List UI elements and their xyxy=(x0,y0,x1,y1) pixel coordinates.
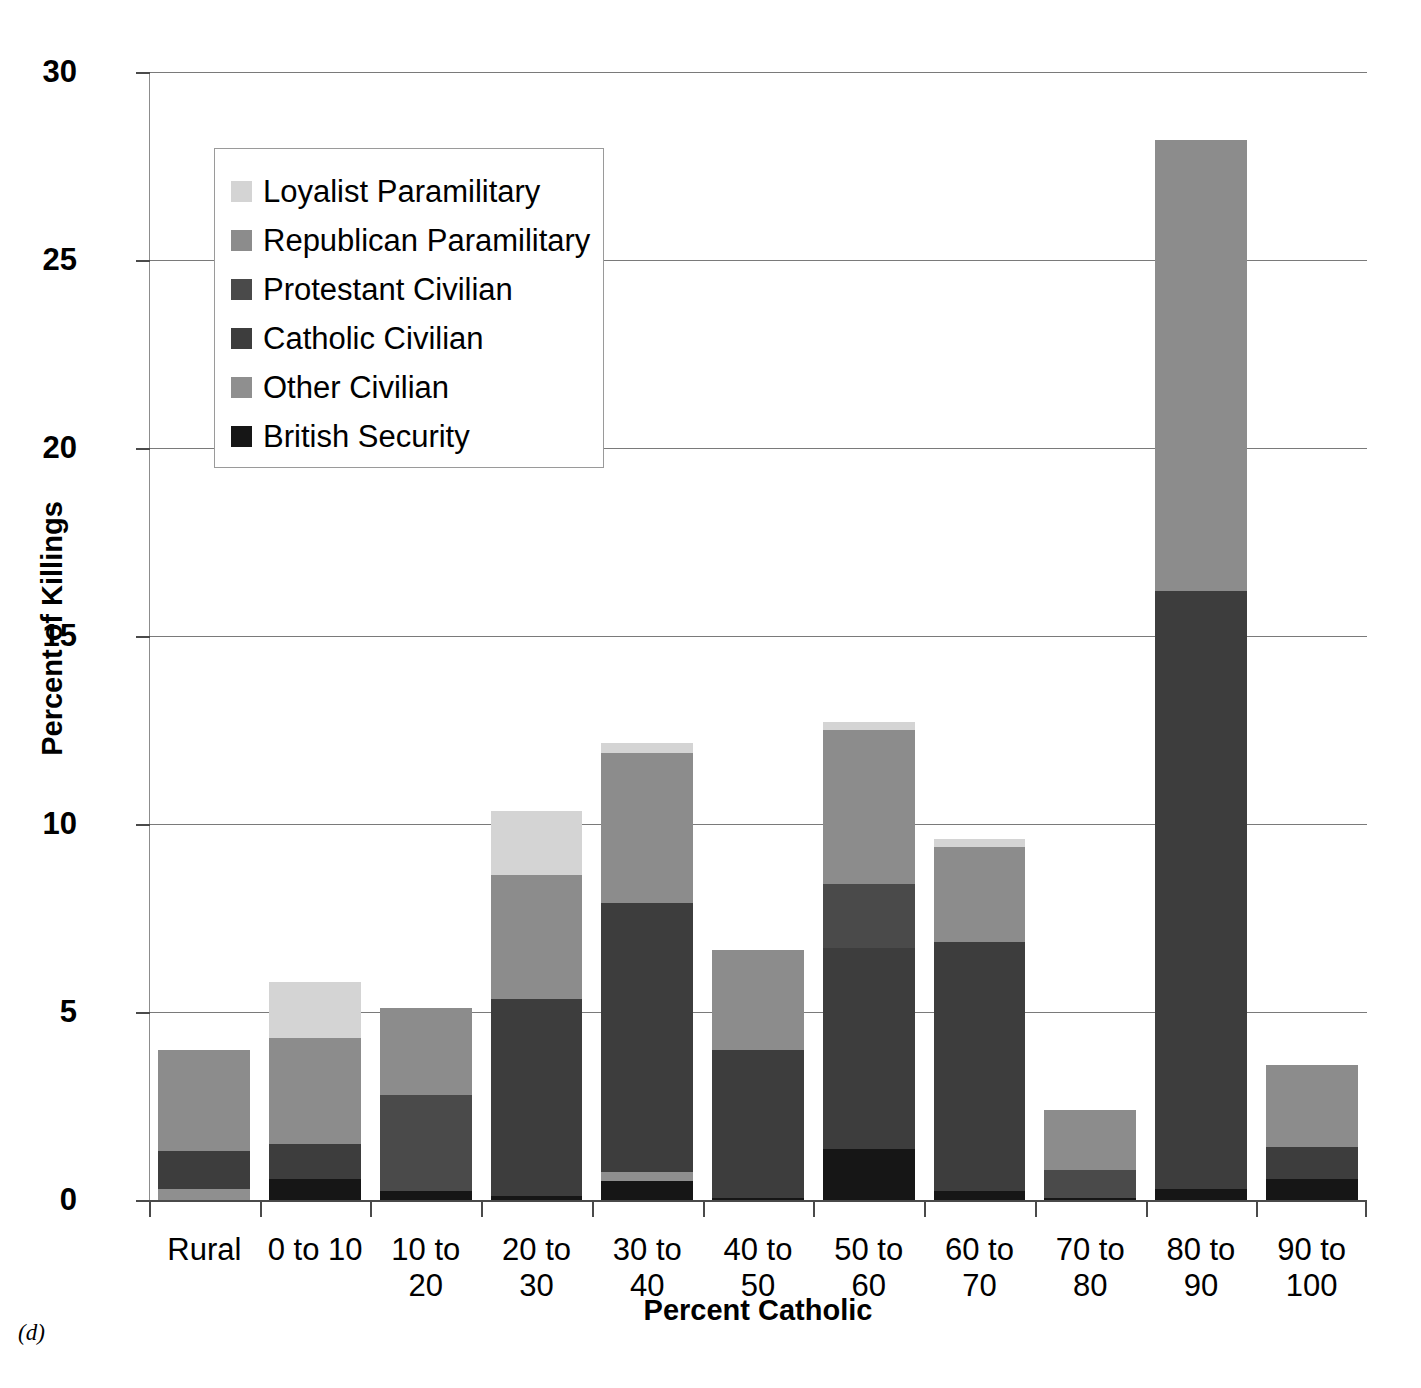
legend-swatch-icon xyxy=(231,230,252,251)
bar-segment xyxy=(1155,591,1247,1189)
bar-segment xyxy=(158,1050,250,1152)
bar-segment xyxy=(823,884,915,948)
legend-swatch-icon xyxy=(231,279,252,300)
bar-segment xyxy=(712,1198,804,1200)
y-tick-mark xyxy=(136,260,150,262)
x-axis-title: Percent Catholic xyxy=(149,1294,1367,1327)
x-tick-mark xyxy=(481,1202,483,1217)
bar-segment xyxy=(1266,1179,1358,1200)
bar-segment xyxy=(1044,1198,1136,1200)
bar-segment xyxy=(934,839,1026,847)
bar-segment xyxy=(158,1189,250,1200)
bar-segment xyxy=(380,1095,472,1191)
stacked-bar-chart: Percent of Killings 051015202530 Rural0 … xyxy=(0,0,1421,1388)
x-label-line: 40 to xyxy=(703,1232,814,1268)
bar-segment xyxy=(601,1181,693,1200)
bar-segment xyxy=(269,1144,361,1180)
x-label-line: 20 to xyxy=(481,1232,592,1268)
x-label-line: 90 to xyxy=(1256,1232,1367,1268)
x-tick-mark xyxy=(592,1202,594,1217)
bar-segment xyxy=(1044,1170,1136,1198)
bar-segment xyxy=(380,1191,472,1200)
legend-swatch-icon xyxy=(231,426,252,447)
legend-item-label: Other Civilian xyxy=(263,372,449,403)
x-tick-mark xyxy=(260,1202,262,1217)
bar-segment xyxy=(269,1179,361,1200)
x-tick-mark xyxy=(1256,1202,1258,1217)
y-tick-label: 25 xyxy=(0,244,77,275)
legend-item-label: British Security xyxy=(263,421,470,452)
x-label-line: 80 to xyxy=(1146,1232,1257,1268)
x-label-line: 30 to xyxy=(592,1232,703,1268)
bar-60-to-70 xyxy=(934,72,1026,1200)
legend-item-label: Protestant Civilian xyxy=(263,274,513,305)
legend-item: Protestant Civilian xyxy=(231,265,603,314)
bar-segment xyxy=(1155,1189,1247,1200)
y-tick-mark xyxy=(136,1012,150,1014)
y-tick-mark xyxy=(136,1200,150,1202)
y-tick-mark xyxy=(136,824,150,826)
y-tick-label: 15 xyxy=(0,620,77,651)
bar-segment xyxy=(712,1050,804,1199)
bar-segment xyxy=(712,950,804,1050)
x-axis-label: 0 to 10 xyxy=(260,1232,371,1268)
bar-segment xyxy=(823,948,915,1149)
bar-segment xyxy=(491,811,583,875)
legend-item: Catholic Civilian xyxy=(231,314,603,363)
y-tick-label: 30 xyxy=(0,56,77,87)
bar-segment xyxy=(491,1196,583,1200)
legend-item-label: Loyalist Paramilitary xyxy=(263,176,540,207)
x-tick-mark xyxy=(1365,1202,1367,1217)
y-tick-label: 0 xyxy=(0,1184,77,1215)
x-label-line: 60 to xyxy=(924,1232,1035,1268)
x-tick-mark xyxy=(149,1202,151,1217)
figure-caption: (d) xyxy=(18,1320,45,1346)
x-tick-mark xyxy=(1146,1202,1148,1217)
chart-legend: Loyalist ParamilitaryRepublican Paramili… xyxy=(214,148,604,468)
bar-80-to-90 xyxy=(1155,72,1247,1200)
y-tick-mark xyxy=(136,448,150,450)
legend-item: Other Civilian xyxy=(231,363,603,412)
legend-swatch-icon xyxy=(231,377,252,398)
bar-segment xyxy=(601,903,693,1172)
bar-40-to-50 xyxy=(712,72,804,1200)
x-axis-label: Rural xyxy=(149,1232,260,1268)
bar-segment xyxy=(601,743,693,752)
bar-segment xyxy=(823,722,915,730)
x-label-line: 10 to xyxy=(370,1232,481,1268)
bar-segment xyxy=(269,982,361,1038)
legend-swatch-icon xyxy=(231,181,252,202)
bar-70-to-80 xyxy=(1044,72,1136,1200)
x-tick-mark xyxy=(370,1202,372,1217)
y-tick-label: 20 xyxy=(0,432,77,463)
y-tick-mark xyxy=(136,636,150,638)
x-tick-mark xyxy=(1035,1202,1037,1217)
bar-segment xyxy=(380,1008,472,1094)
bar-segment xyxy=(1044,1110,1136,1170)
legend-item: Republican Paramilitary xyxy=(231,216,603,265)
x-tick-mark xyxy=(813,1202,815,1217)
bar-segment xyxy=(491,999,583,1196)
bar-segment xyxy=(823,730,915,884)
bar-segment xyxy=(1266,1147,1358,1179)
legend-item-label: Republican Paramilitary xyxy=(263,225,590,256)
bar-segment xyxy=(491,875,583,999)
bar-segment xyxy=(823,1149,915,1200)
x-tick-mark xyxy=(703,1202,705,1217)
bar-segment xyxy=(934,847,1026,943)
x-label-line: 70 to xyxy=(1035,1232,1146,1268)
legend-item-label: Catholic Civilian xyxy=(263,323,484,354)
x-axis-line xyxy=(149,1200,1367,1202)
x-tick-mark xyxy=(924,1202,926,1217)
bar-segment xyxy=(1155,140,1247,591)
legend-item: British Security xyxy=(231,412,603,461)
legend-swatch-icon xyxy=(231,328,252,349)
bar-30-to-40 xyxy=(601,72,693,1200)
y-tick-label: 5 xyxy=(0,996,77,1027)
bar-segment xyxy=(601,753,693,903)
bar-segment xyxy=(269,1038,361,1143)
bar-segment xyxy=(934,942,1026,1190)
bar-segment xyxy=(601,1172,693,1181)
x-label-line: 50 to xyxy=(813,1232,924,1268)
bar-90-to-100 xyxy=(1266,72,1358,1200)
